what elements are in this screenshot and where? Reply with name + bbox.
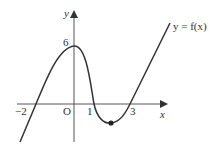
y-axis-label: y [63, 7, 69, 19]
origin-label: O [63, 105, 71, 117]
function-graph: y x 6 −2 O 1 3 y = f(x) [0, 0, 217, 151]
minimum-point [108, 120, 113, 125]
x-tick-1: 1 [87, 105, 93, 117]
y-tick-6: 6 [63, 36, 69, 48]
curve-label: y = f(x) [173, 20, 207, 33]
curve-f [20, 23, 170, 142]
x-axis-label: x [159, 108, 165, 120]
x-tick-3: 3 [130, 105, 136, 117]
x-tick-neg2: −2 [15, 105, 27, 117]
